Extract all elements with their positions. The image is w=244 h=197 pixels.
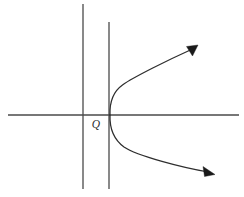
parabola-diagram: Q <box>0 0 244 197</box>
parabola-upper-branch <box>110 49 193 115</box>
lower-branch-arrowhead <box>203 167 215 177</box>
vertex-label-q: Q <box>92 118 101 130</box>
diagram-canvas: Q <box>0 0 244 197</box>
parabola-lower-branch <box>110 115 209 172</box>
